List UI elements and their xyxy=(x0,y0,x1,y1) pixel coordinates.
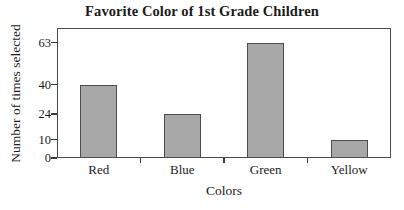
y-axis-tick-labels: 010244063 xyxy=(22,0,51,210)
y-tick-mark-63 xyxy=(51,42,57,43)
bar-yellow xyxy=(331,140,368,158)
bar-chart: Favorite Color of 1st Grade Children 010… xyxy=(0,0,404,210)
y-tick-label-0: 0 xyxy=(25,152,51,164)
x-tick-label-yellow: Yellow xyxy=(307,162,391,178)
y-tick-mark-0 xyxy=(51,157,57,158)
y-tick-label-63: 63 xyxy=(25,37,51,49)
x-tick-label-blue: Blue xyxy=(140,162,224,178)
y-tick-mark-40 xyxy=(51,84,57,85)
x-tick-label-red: Red xyxy=(57,162,141,178)
y-axis-title: Number of times selected xyxy=(8,19,23,169)
y-tick-label-40: 40 xyxy=(25,79,51,91)
y-tick-label-24: 24 xyxy=(25,108,51,120)
bars-layer xyxy=(57,28,391,158)
y-tick-mark-10 xyxy=(51,139,57,140)
bar-red xyxy=(80,85,117,158)
y-tick-mark-24 xyxy=(51,113,57,114)
bar-green xyxy=(247,43,284,158)
y-tick-label-10: 10 xyxy=(25,134,51,146)
bar-blue xyxy=(164,114,201,158)
x-tick-label-green: Green xyxy=(224,162,308,178)
chart-title: Favorite Color of 1st Grade Children xyxy=(0,3,404,20)
x-axis-title: Colors xyxy=(57,183,391,199)
